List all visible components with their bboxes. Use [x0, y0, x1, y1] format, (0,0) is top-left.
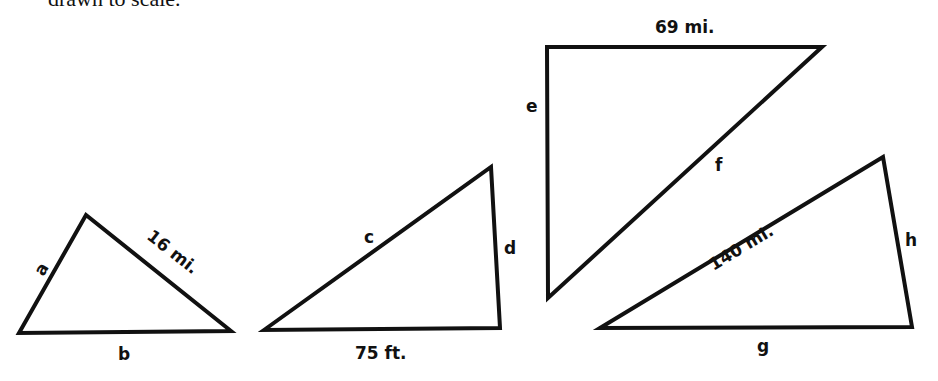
side-140mi-label: 140 mi. [705, 220, 777, 274]
side-e-label: e [526, 96, 538, 116]
side-g-label: g [757, 336, 769, 356]
side-75ft-label: 75 ft. [355, 343, 407, 363]
side-b-label: b [118, 344, 130, 364]
triangles-diagram: a 16 mi. b c d 75 ft. 69 mi. e f 140 mi.… [0, 0, 938, 381]
side-d-label: d [504, 238, 516, 258]
triangle-4: 140 mi. h g [600, 157, 917, 356]
triangle-2-shape [264, 167, 500, 330]
side-69mi-label: 69 mi. [655, 17, 715, 37]
side-c-label: c [364, 227, 374, 247]
triangle-1-shape [19, 215, 231, 333]
triangle-3: 69 mi. e f [526, 17, 822, 298]
triangle-3-shape [547, 47, 822, 298]
triangle-1: a 16 mi. b [19, 215, 231, 364]
side-h-label: h [905, 230, 917, 250]
triangle-2: c d 75 ft. [264, 167, 516, 363]
side-f-label: f [715, 155, 723, 175]
